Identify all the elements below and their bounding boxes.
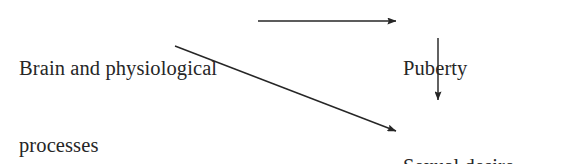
node-puberty-line-1: Puberty (403, 56, 467, 82)
node-brain-line-2: processes (19, 133, 217, 159)
diagram-canvas: Brain and physiological processes Pubert… (0, 0, 571, 164)
node-brain-and-physiological-processes: Brain and physiological processes (19, 5, 217, 164)
node-sexual-line-1: Sexual desire (403, 154, 519, 164)
node-sexual-desire-and-behaviors: Sexual desire and behaviors (403, 103, 519, 164)
node-brain-line-1: Brain and physiological (19, 56, 217, 82)
